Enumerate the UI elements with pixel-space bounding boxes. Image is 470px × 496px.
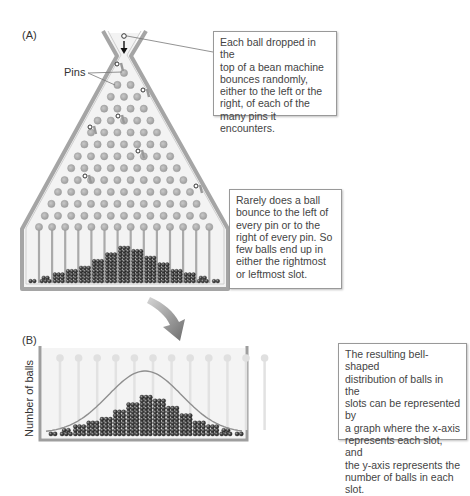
callout-line: right of every pin. So bbox=[236, 231, 335, 243]
callout-line: distribution of balls in the bbox=[345, 373, 460, 398]
callout-rare-extremes: Rarely does a ballbounce to the left ofe… bbox=[229, 189, 342, 289]
curved-arrow-icon bbox=[147, 297, 185, 341]
callout-line: Rarely does a ball bbox=[236, 194, 335, 206]
callout-line: represents each slot, and bbox=[345, 434, 460, 459]
callout-line: number of balls in each slot. bbox=[345, 471, 460, 496]
callout-bell-shaped: The resulting bell-shapeddistribution of… bbox=[338, 343, 467, 440]
callout-line: bounces randomly, bbox=[220, 73, 330, 85]
callout-line: a graph where the x-axis bbox=[345, 422, 460, 434]
callout-line: top of a bean machine bbox=[220, 61, 330, 73]
y-axis-label: Number of balls bbox=[23, 360, 35, 437]
callout-line: slots can be represented by bbox=[345, 397, 460, 422]
pins-label: Pins bbox=[64, 66, 85, 78]
callout-line: few balls end up in bbox=[236, 243, 335, 255]
callout-random-bounce: Each ball dropped in thetop of a bean ma… bbox=[213, 31, 337, 116]
callout-line: Each ball dropped in the bbox=[220, 36, 330, 61]
callout-line: the y-axis represents the bbox=[345, 459, 460, 471]
callout-line: The resulting bell-shaped bbox=[345, 348, 460, 373]
callout-line: bounce to the left of bbox=[236, 206, 335, 218]
callout-line: either to the left or the bbox=[220, 85, 330, 97]
callout-line: many pins it encounters. bbox=[220, 110, 330, 135]
callout-line: either the rightmost bbox=[236, 255, 335, 267]
callout-line: or leftmost slot. bbox=[236, 268, 335, 280]
callout-line: right, of each of the bbox=[220, 97, 330, 109]
callout-line: every pin or to the bbox=[236, 219, 335, 231]
